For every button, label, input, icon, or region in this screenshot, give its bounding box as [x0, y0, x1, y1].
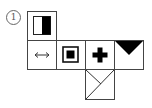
square-in-square-icon: [63, 47, 78, 62]
downward-triangle-icon: [115, 41, 143, 55]
half-black-rectangle-icon: [34, 17, 51, 35]
cube-net-diagram: [0, 0, 152, 108]
plus-icon: [93, 48, 108, 63]
double-arrow-icon: [35, 53, 49, 58]
diagonal-lines-icon: [86, 70, 114, 99]
